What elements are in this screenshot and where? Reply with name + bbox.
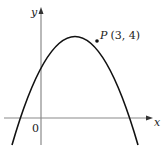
point-p-name: P bbox=[99, 29, 108, 42]
y-axis-label: y bbox=[30, 6, 38, 19]
x-axis-arrow-icon bbox=[146, 116, 153, 121]
parabola-diagram: y x 0 P(3, 4) bbox=[0, 0, 162, 149]
point-p-label: P(3, 4) bbox=[99, 29, 140, 42]
parabola-curve bbox=[12, 37, 138, 146]
y-axis-arrow-icon bbox=[39, 7, 44, 14]
point-p-coords: (3, 4) bbox=[110, 29, 140, 42]
origin-label: 0 bbox=[32, 122, 39, 135]
y-axis bbox=[39, 7, 44, 145]
x-axis-label: x bbox=[154, 116, 161, 129]
point-p-marker bbox=[95, 39, 99, 43]
